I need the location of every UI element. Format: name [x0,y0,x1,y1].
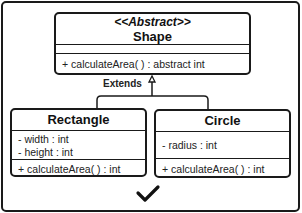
checkmark-icon [0,0,302,213]
